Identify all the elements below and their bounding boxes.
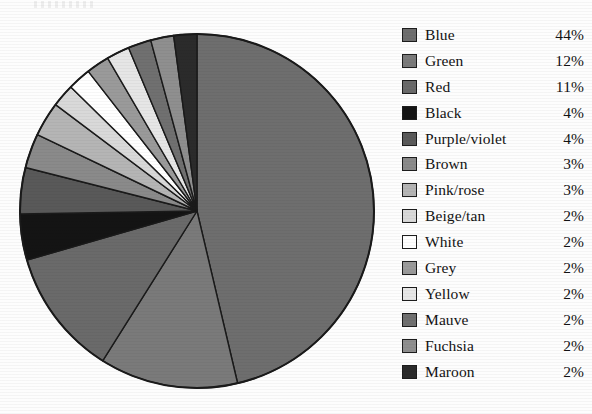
pie-chart-figure xyxy=(0,0,396,414)
legend-value: 3% xyxy=(544,181,584,199)
legend-value: 2% xyxy=(544,233,584,251)
legend-swatch-icon xyxy=(402,365,417,379)
legend-value: 2% xyxy=(544,363,584,381)
legend: Blue44%Green12%Red11%Black4%Purple/viole… xyxy=(402,22,584,384)
legend-row[interactable]: Black4% xyxy=(402,100,584,126)
legend-value: 3% xyxy=(544,155,584,173)
legend-label: Purple/violet xyxy=(425,130,544,148)
legend-row[interactable]: Maroon2% xyxy=(402,359,584,385)
legend-label: Blue xyxy=(425,26,544,44)
legend-value: 12% xyxy=(544,52,584,70)
legend-label: Pink/rose xyxy=(425,181,544,199)
legend-row[interactable]: Yellow2% xyxy=(402,281,584,307)
legend-row[interactable]: Beige/tan2% xyxy=(402,203,584,229)
legend-value: 2% xyxy=(544,207,584,225)
legend-swatch-icon xyxy=(402,209,417,223)
legend-swatch-icon xyxy=(402,132,417,146)
legend-swatch-icon xyxy=(402,157,417,171)
legend-swatch-icon xyxy=(402,313,417,327)
legend-row[interactable]: White2% xyxy=(402,229,584,255)
legend-swatch-icon xyxy=(402,106,417,120)
legend-label: Green xyxy=(425,52,544,70)
legend-swatch-icon xyxy=(402,28,417,42)
legend-value: 4% xyxy=(544,104,584,122)
legend-value: 4% xyxy=(544,130,584,148)
legend-label: Maroon xyxy=(425,363,544,381)
legend-row[interactable]: Green12% xyxy=(402,48,584,74)
legend-swatch-icon xyxy=(402,54,417,68)
legend-value: 2% xyxy=(544,311,584,329)
legend-row[interactable]: Fuchsia2% xyxy=(402,333,584,359)
legend-value: 2% xyxy=(544,337,584,355)
legend-value: 44% xyxy=(544,26,584,44)
legend-row[interactable]: Brown3% xyxy=(402,151,584,177)
legend-label: White xyxy=(425,233,544,251)
legend-swatch-icon xyxy=(402,235,417,249)
pie-chart-page: Blue44%Green12%Red11%Black4%Purple/viole… xyxy=(0,0,592,414)
legend-value: 2% xyxy=(544,285,584,303)
legend-swatch-icon xyxy=(402,183,417,197)
legend-swatch-icon xyxy=(402,80,417,94)
legend-row[interactable]: Mauve2% xyxy=(402,307,584,333)
legend-swatch-icon xyxy=(402,261,417,275)
legend-label: Yellow xyxy=(425,285,544,303)
legend-label: Grey xyxy=(425,259,544,277)
legend-label: Brown xyxy=(425,155,544,173)
pie-chart-svg xyxy=(0,0,396,414)
pie-slices-group xyxy=(20,34,374,388)
legend-label: Beige/tan xyxy=(425,207,544,225)
legend-swatch-icon xyxy=(402,339,417,353)
legend-row[interactable]: Blue44% xyxy=(402,22,584,48)
legend-value: 11% xyxy=(544,78,584,96)
legend-label: Black xyxy=(425,104,544,122)
legend-value: 2% xyxy=(544,259,584,277)
legend-row[interactable]: Purple/violet4% xyxy=(402,126,584,152)
legend-label: Mauve xyxy=(425,311,544,329)
legend-row[interactable]: Grey2% xyxy=(402,255,584,281)
legend-row[interactable]: Red11% xyxy=(402,74,584,100)
legend-swatch-icon xyxy=(402,287,417,301)
legend-label: Fuchsia xyxy=(425,337,544,355)
legend-row[interactable]: Pink/rose3% xyxy=(402,177,584,203)
legend-label: Red xyxy=(425,78,544,96)
